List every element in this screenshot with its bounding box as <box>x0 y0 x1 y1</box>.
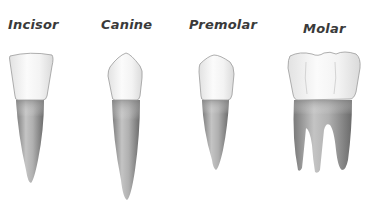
teeth-illustration <box>0 0 367 216</box>
canine-crown <box>108 53 142 100</box>
molar-crown <box>288 52 360 100</box>
incisor-crown <box>10 53 54 100</box>
premolar-tooth <box>199 55 234 170</box>
canine-tooth <box>108 53 142 200</box>
premolar-crown <box>199 55 234 100</box>
molar-tooth <box>288 52 360 173</box>
incisor-tooth <box>10 53 54 183</box>
